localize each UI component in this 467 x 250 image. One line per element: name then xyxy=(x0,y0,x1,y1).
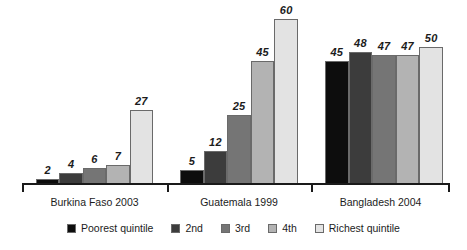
legend-swatch-icon xyxy=(221,224,230,233)
legend-item[interactable]: 2nd xyxy=(171,222,203,234)
bar-value-label: 7 xyxy=(106,150,129,162)
bar-value-label: 5 xyxy=(180,155,204,167)
bar-slot: 47 xyxy=(396,14,420,184)
bar-slot: 60 xyxy=(274,14,298,184)
bar xyxy=(106,165,129,184)
bar-value-label: 25 xyxy=(227,100,251,112)
bar-value-label: 50 xyxy=(419,32,443,44)
legend-label: 2nd xyxy=(185,222,203,234)
bar-slot: 5 xyxy=(180,14,204,184)
legend-swatch-icon xyxy=(171,224,180,233)
bar xyxy=(274,19,298,184)
bar-value-label: 12 xyxy=(204,136,228,148)
bar-value-label: 48 xyxy=(349,37,373,49)
legend-item[interactable]: Richest quintile xyxy=(315,222,400,234)
bar-value-label: 4 xyxy=(59,158,82,170)
bar-slot: 25 xyxy=(227,14,251,184)
bar xyxy=(325,61,349,184)
bar-group-guatemala-1999: 512254560 xyxy=(180,14,298,184)
bar-value-label: 2 xyxy=(36,164,59,176)
legend: Poorest quintile2nd3rd4thRichest quintil… xyxy=(0,222,467,234)
bar xyxy=(180,170,204,184)
bar xyxy=(396,55,420,184)
category-label-bangladesh-2004: Bangladesh 2004 xyxy=(311,196,450,209)
bar xyxy=(130,110,153,184)
bar xyxy=(372,55,396,184)
legend-swatch-icon xyxy=(67,224,76,233)
legend-label: 3rd xyxy=(235,222,250,234)
bar-group-burkina-faso-2003: 246727 xyxy=(36,14,153,184)
bar xyxy=(83,168,106,184)
legend-label: Richest quintile xyxy=(329,222,400,234)
bar xyxy=(349,52,373,184)
plot-area: 246727 512254560 4548474750 xyxy=(0,0,467,184)
bar-slot: 50 xyxy=(419,14,443,184)
bar-slot: 27 xyxy=(130,14,153,184)
legend-item[interactable]: Poorest quintile xyxy=(67,222,153,234)
axis-tick-1 xyxy=(167,185,169,192)
bar-value-label: 6 xyxy=(83,153,106,165)
bar-value-label: 45 xyxy=(325,46,349,58)
axis-tick-2 xyxy=(311,185,313,192)
x-axis-line xyxy=(22,183,450,185)
bar-slot: 6 xyxy=(83,14,106,184)
legend-item[interactable]: 4th xyxy=(268,222,297,234)
bar-slot: 48 xyxy=(349,14,373,184)
legend-item[interactable]: 3rd xyxy=(221,222,250,234)
bar-slot: 4 xyxy=(59,14,82,184)
legend-label: Poorest quintile xyxy=(81,222,153,234)
bar-value-label: 45 xyxy=(251,46,275,58)
bar-value-label: 47 xyxy=(396,40,420,52)
bar-value-label: 60 xyxy=(274,4,298,16)
bar-slot: 47 xyxy=(372,14,396,184)
bar-slot: 12 xyxy=(204,14,228,184)
category-label-guatemala-1999: Guatemala 1999 xyxy=(167,196,311,209)
legend-swatch-icon xyxy=(315,224,324,233)
category-label-burkina-faso-2003: Burkina Faso 2003 xyxy=(22,196,167,209)
bar-slot: 45 xyxy=(325,14,349,184)
bar-slot: 7 xyxy=(106,14,129,184)
bar xyxy=(227,115,251,184)
bar-group-bangladesh-2004: 4548474750 xyxy=(325,14,443,184)
bar-chart: 246727 512254560 4548474750 Burkina Faso… xyxy=(0,0,467,250)
bar-value-label: 27 xyxy=(130,95,153,107)
bar-slot: 45 xyxy=(251,14,275,184)
bar xyxy=(419,47,443,184)
bar-slot: 2 xyxy=(36,14,59,184)
legend-swatch-icon xyxy=(268,224,277,233)
bar xyxy=(251,61,275,184)
axis-tick-end xyxy=(448,185,450,192)
bar-value-label: 47 xyxy=(372,40,396,52)
bar xyxy=(204,151,228,184)
axis-tick-start xyxy=(22,185,24,192)
legend-label: 4th xyxy=(282,222,297,234)
